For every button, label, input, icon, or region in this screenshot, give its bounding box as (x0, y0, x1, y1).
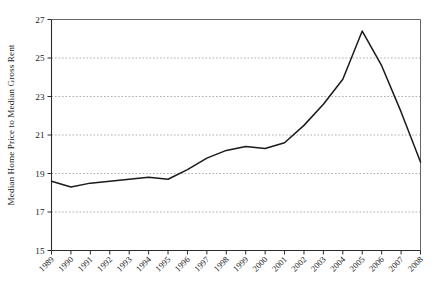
gridlines (52, 58, 421, 251)
x-tick-label: 2003 (309, 254, 328, 273)
x-tick-label: 1990 (56, 254, 75, 273)
y-tick-label: 15 (35, 246, 45, 256)
y-tick-label: 27 (35, 15, 45, 25)
chart-container: Median Home Price to Median Gross Rent 1… (0, 0, 436, 306)
y-tick-label: 17 (35, 207, 45, 217)
x-tick-label: 1989 (37, 254, 56, 273)
x-tick-label: 2008 (406, 254, 425, 273)
x-tick-label: 2006 (367, 254, 387, 274)
y-tick-label: 19 (35, 169, 45, 179)
x-tick-label: 1995 (153, 254, 172, 273)
x-tick-label: 2001 (270, 254, 289, 273)
x-tick-label: 1999 (231, 254, 250, 273)
x-tick-label: 1998 (211, 254, 230, 273)
x-tick-label: 1992 (95, 254, 114, 273)
x-tick-label: 2002 (289, 254, 308, 273)
y-axis-ticks: 15171921232527 (35, 15, 51, 256)
plot-area: 15171921232527 1989199019911992199319941… (0, 0, 436, 306)
x-tick-label: 2000 (250, 254, 269, 273)
x-tick-label: 2004 (328, 254, 348, 274)
y-tick-label: 23 (35, 92, 45, 102)
data-series-line (52, 31, 421, 187)
x-tick-label: 2007 (386, 254, 406, 274)
x-tick-label: 1994 (134, 254, 154, 274)
x-tick-label: 1991 (76, 254, 95, 273)
y-tick-label: 21 (35, 130, 45, 140)
x-axis-ticks: 1989199019911992199319941995199619971998… (37, 251, 425, 274)
x-tick-label: 1993 (114, 254, 133, 273)
y-tick-label: 25 (35, 53, 45, 63)
x-tick-label: 1996 (173, 254, 193, 274)
plot-frame (52, 20, 421, 251)
x-tick-label: 1997 (192, 254, 212, 274)
x-tick-label: 2005 (347, 254, 366, 273)
